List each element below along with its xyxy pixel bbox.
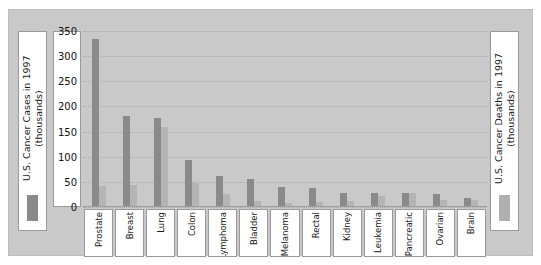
bar-deaths: [192, 183, 199, 207]
bar-group: [207, 31, 238, 207]
category-label: Lung: [156, 212, 166, 233]
bar-group: [269, 31, 300, 207]
bar-group: [145, 31, 176, 207]
category-label-box: Melanoma: [270, 209, 299, 257]
bar-deaths: [161, 127, 168, 207]
legend-cases-swatch: [27, 195, 38, 221]
category-label-box: Bladder: [239, 209, 268, 257]
category-label-box: Colon: [177, 209, 206, 257]
category-label: Ovarian: [435, 212, 445, 245]
y-tick-label: 50: [64, 178, 77, 188]
y-tick-label: 200: [58, 102, 77, 112]
bar-group: [176, 31, 207, 207]
legend-deaths-swatch: [499, 195, 510, 221]
category-label-box: Pancreatic: [395, 209, 424, 257]
legend-deaths: U.S. Cancer Deaths in 1997 (thousands): [490, 31, 519, 231]
bar-deaths: [409, 193, 416, 207]
y-tick-label: 0: [71, 203, 77, 213]
bar-group: [456, 31, 487, 207]
bar-cases: [154, 118, 161, 208]
category-label: Rectal: [311, 212, 321, 238]
bar-cases: [123, 116, 130, 207]
bar-group: [332, 31, 363, 207]
legend-cases: U.S. Cancer Cases in 1997 (thousands): [18, 31, 47, 231]
bar-cases: [278, 187, 285, 207]
bar-group: [83, 31, 114, 207]
category-label-box: Brain: [457, 209, 486, 257]
bar-group: [114, 31, 145, 207]
y-tick-label: 100: [58, 153, 77, 163]
bar-group: [425, 31, 456, 207]
bar-group: [238, 31, 269, 207]
bar-cases: [185, 160, 192, 207]
category-label: Breast: [125, 212, 135, 239]
bar-cases: [247, 179, 254, 207]
category-label-box: Prostate: [84, 209, 113, 257]
plot-area: [83, 31, 487, 207]
category-label: Prostate: [94, 212, 104, 247]
bar-group: [394, 31, 425, 207]
bar-cases: [309, 188, 316, 207]
category-label-box: Lymphoma: [208, 209, 237, 257]
category-label-box: Kidney: [333, 209, 362, 257]
y-tick-label: 150: [58, 128, 77, 138]
category-label: Kidney: [342, 212, 352, 241]
category-label: Bladder: [249, 212, 259, 245]
category-label-box: Breast: [115, 209, 144, 257]
bar-groups: [83, 31, 487, 207]
category-labels: ProstateBreastLungColonLymphomaBladderMe…: [83, 209, 487, 257]
bar-group: [301, 31, 332, 207]
category-label: Pancreatic: [404, 212, 414, 256]
y-tick-label: 350: [58, 27, 77, 37]
bar-deaths: [130, 185, 137, 207]
category-label: Lymphoma: [218, 212, 228, 257]
bar-cases: [216, 176, 223, 207]
category-label-box: Rectal: [302, 209, 331, 257]
chart-panel: U.S. Cancer Cases in 1997 (thousands) U.…: [8, 9, 533, 256]
bar-deaths: [99, 186, 106, 207]
category-label: Brain: [466, 212, 476, 234]
category-label-box: Leukemia: [364, 209, 393, 257]
category-label-box: Lung: [146, 209, 175, 257]
y-tick-label: 250: [58, 77, 77, 87]
y-axis: 350300250200150100500: [53, 31, 81, 207]
legend-cases-label: U.S. Cancer Cases in 1997 (thousands): [21, 42, 45, 195]
bar-cases: [371, 193, 378, 207]
bar-cases: [340, 193, 347, 207]
gridline: [83, 207, 487, 208]
bar-group: [363, 31, 394, 207]
bar-cases: [402, 193, 409, 207]
category-label: Melanoma: [280, 212, 290, 256]
bar-cases: [92, 39, 99, 207]
category-label-box: Ovarian: [426, 209, 455, 257]
axis-baseline: [83, 206, 487, 207]
legend-deaths-label: U.S. Cancer Deaths in 1997 (thousands): [493, 42, 517, 195]
category-label: Colon: [187, 212, 197, 236]
category-label: Leukemia: [373, 212, 383, 253]
chart-screenshot: U.S. Cancer Cases in 1997 (thousands) U.…: [0, 0, 541, 265]
y-tick-label: 300: [58, 52, 77, 62]
